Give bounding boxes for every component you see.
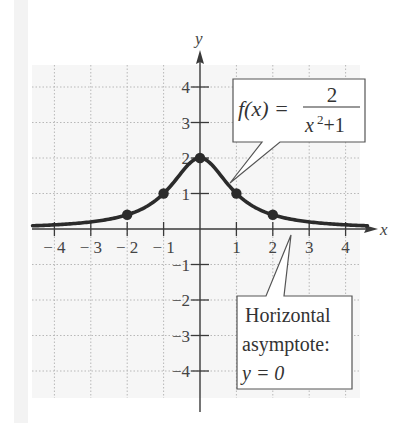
y-tick-label: 1	[182, 185, 191, 204]
x-tick-label: 4	[341, 238, 350, 257]
data-point	[268, 210, 278, 220]
data-point	[158, 188, 168, 198]
x-tick-label: − 1	[152, 238, 174, 257]
x-tick-label: 3	[305, 238, 314, 257]
denominator-base: x	[304, 114, 314, 136]
function-denominator: x2+1	[304, 112, 345, 136]
y-tick-label: 4	[182, 78, 191, 97]
function-graph: − 4− 3− 2− 11234 4321−1−2−3−4 x y f(x) =…	[0, 0, 414, 423]
asymptote-line-2: asymptote:	[242, 333, 330, 356]
denominator-rest: +1	[323, 114, 344, 136]
x-tick-label: − 3	[80, 238, 102, 257]
data-point	[231, 188, 241, 198]
y-tick-label: −1	[172, 256, 190, 275]
x-tick-label: − 4	[43, 238, 66, 257]
y-axis-label: y	[193, 29, 203, 48]
x-tick-label: − 2	[116, 238, 138, 257]
x-tick-label: 1	[232, 238, 241, 257]
y-tick-label: −4	[172, 362, 191, 381]
data-point	[122, 210, 132, 220]
function-lhs: f(x) =	[238, 96, 289, 121]
y-tick-label: −2	[172, 291, 190, 310]
asymptote-line-1: Horizontal	[245, 304, 331, 326]
y-tick-label: −3	[172, 327, 190, 346]
x-axis-label: x	[379, 220, 388, 239]
x-tick-label: 2	[269, 238, 278, 257]
y-axis-arrow-icon	[196, 50, 204, 64]
y-tick-label: 3	[182, 114, 191, 133]
function-numerator: 2	[327, 83, 338, 107]
data-point	[195, 153, 205, 163]
asymptote-line-3: y = 0	[240, 362, 284, 385]
